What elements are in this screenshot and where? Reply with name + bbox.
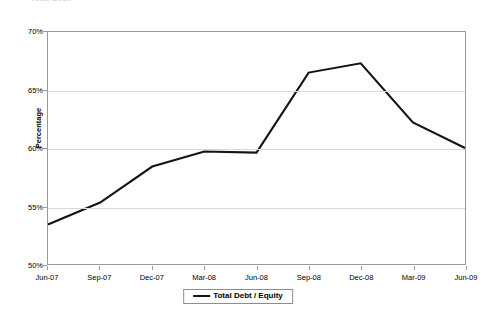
x-axis-tick-mark: [466, 266, 467, 270]
x-axis-tick-group: Jun-07Sep-07Dec-07Mar-08Jun-08Sep-08Dec-…: [47, 266, 466, 288]
gridline: [48, 91, 465, 92]
x-axis-tick-mark: [309, 266, 310, 270]
x-axis-tick-mark: [47, 266, 48, 270]
series-svg: [48, 32, 465, 264]
x-axis-tick-mark: [152, 266, 153, 270]
x-axis-tick-mark: [204, 266, 205, 270]
legend: Total Debt / Equity: [183, 289, 293, 304]
x-axis-tick-label: Sep-08: [279, 273, 339, 282]
x-axis-tick-label: Dec-08: [331, 273, 391, 282]
x-axis-tick-label: Mar-08: [174, 273, 234, 282]
x-axis-tick-label: Jun-08: [227, 273, 287, 282]
x-axis-tick-label: Jun-07: [17, 273, 77, 282]
y-axis-tick-label: 55%: [3, 202, 43, 211]
x-axis-tick-mark: [414, 266, 415, 270]
x-axis-tick-label: Sep-07: [69, 273, 129, 282]
plot-area: [47, 31, 466, 265]
x-axis-tick-mark: [361, 266, 362, 270]
x-axis-tick-mark: [257, 266, 258, 270]
gridline: [48, 149, 465, 150]
legend-line-swatch: [193, 295, 210, 297]
y-axis-tick-label: 50%: [3, 261, 43, 270]
gridline: [48, 208, 465, 209]
x-axis-tick-label: Jun-09: [436, 273, 482, 282]
x-axis-tick-mark: [99, 266, 100, 270]
y-axis-tick-group: 50%55%60%65%70%: [0, 31, 43, 265]
y-axis-tick-label: 70%: [3, 27, 43, 36]
x-axis-tick-label: Mar-09: [384, 273, 444, 282]
series-line-total-debt-equity: [48, 63, 465, 224]
clipped-chart-title: Total Debt: [30, 0, 71, 3]
legend-label: Total Debt / Equity: [213, 292, 283, 300]
y-axis-tick-label: 60%: [3, 144, 43, 153]
x-axis-tick-label: Dec-07: [122, 273, 182, 282]
y-axis-tick-label: 65%: [3, 85, 43, 94]
